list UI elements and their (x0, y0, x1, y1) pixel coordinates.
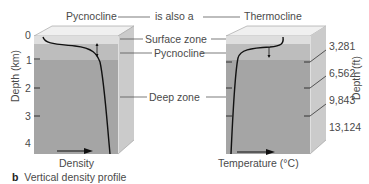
left-axis-label: Depth (km) (9, 46, 21, 106)
temperature-axis-label: Temperature (°C) (218, 158, 299, 169)
right-deep-zone (226, 60, 310, 154)
figure-caption: b Vertical density profile (12, 172, 126, 183)
right-block-top-face (226, 26, 326, 36)
deep-zone-label: Deep zone (149, 92, 200, 103)
caption-text: Vertical density profile (24, 171, 126, 183)
right-surface-zone (226, 36, 310, 44)
left-axis-tick-3: 3 (25, 111, 31, 122)
left-surface-zone (34, 36, 118, 44)
density-axis-label: Density (59, 158, 94, 169)
left-block-side-face (118, 26, 134, 154)
surface-zone-label: Surface zone (145, 34, 207, 45)
left-block-top-face (34, 26, 134, 36)
left-axis-tick-0: 0 (25, 30, 31, 41)
left-axis-tick-2: 2 (25, 83, 31, 94)
header-connector-label: is also a (155, 11, 194, 22)
right-block-side-face (310, 26, 326, 154)
header-thermocline-label: Thermocline (244, 11, 302, 22)
header-pycnocline-label: Pycnocline (66, 11, 117, 22)
pycnocline-zone-label: Pycnocline (154, 48, 205, 59)
right-axis-tick-13124: 13,124 (329, 122, 361, 133)
left-axis-tick-4: 4 (25, 138, 31, 149)
right-axis-label: Depth (ft) (350, 48, 362, 108)
left-axis-tick-1: 1 (26, 55, 32, 66)
caption-letter: b (12, 171, 18, 183)
